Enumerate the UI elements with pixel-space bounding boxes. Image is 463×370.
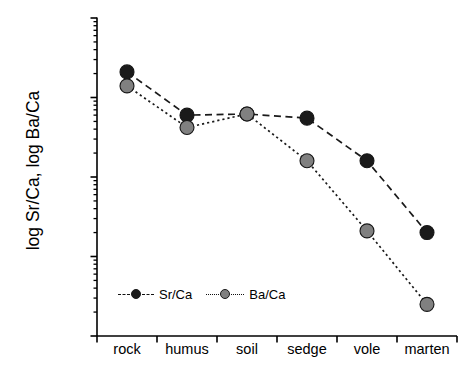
data-point-sr-ca-rock <box>120 65 134 79</box>
legend-label-ba-ca: Ba/Ca <box>249 287 285 302</box>
legend-marker-sr-ca <box>131 289 141 299</box>
data-point-ba-ca-humus <box>180 120 194 134</box>
x-tick-label-sedge: sedge <box>287 341 327 357</box>
legend-entry-ba-ca: Ba/Ca <box>206 287 285 302</box>
y-axis-tick-labels: 0.10.010.0010.00010.00001 <box>0 0 92 370</box>
x-tick-label-humus: humus <box>165 341 209 357</box>
series-line-sr-ca <box>127 72 427 233</box>
legend-line2-sr-ca <box>142 294 154 295</box>
data-point-ba-ca-marten <box>420 297 434 311</box>
legend-line-sr-ca <box>118 294 130 295</box>
x-tick-label-marten: marten <box>404 341 449 357</box>
data-point-ba-ca-soil <box>240 107 254 121</box>
legend-label-sr-ca: Sr/Ca <box>159 287 192 302</box>
chart-container: log Sr/Ca, log Ba/Ca 0.10.010.0010.00010… <box>0 0 463 370</box>
legend-entry-sr-ca: Sr/Ca <box>118 287 192 302</box>
data-point-sr-ca-marten <box>420 226 434 240</box>
x-tick-label-rock: rock <box>113 341 140 357</box>
x-axis-tick-labels: rockhumussoilsedgevolemarten <box>0 341 463 367</box>
legend-line-ba-ca <box>206 294 219 295</box>
x-tick-label-vole: vole <box>354 341 381 357</box>
series-line-ba-ca <box>127 86 427 304</box>
data-point-ba-ca-rock <box>120 79 134 93</box>
data-point-ba-ca-vole <box>360 224 374 238</box>
legend-marker-ba-ca <box>220 289 230 299</box>
data-point-sr-ca-vole <box>360 154 374 168</box>
data-point-sr-ca-sedge <box>300 111 314 125</box>
data-point-ba-ca-sedge <box>300 154 314 168</box>
legend-line2-ba-ca <box>231 294 244 295</box>
chart-legend: Sr/Ca Ba/Ca <box>118 286 285 302</box>
x-tick-label-soil: soil <box>236 341 258 357</box>
